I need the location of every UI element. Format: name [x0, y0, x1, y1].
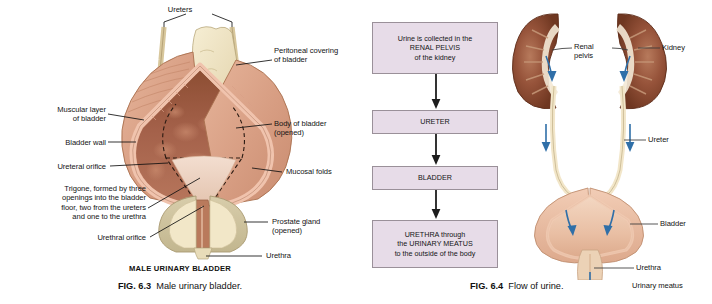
figure-caption-left-prefix: FIG. 6.3	[118, 281, 151, 291]
flow-arrow-3-icon	[430, 190, 442, 220]
figure-caption-right-text: Flow of urine.	[508, 281, 563, 291]
label-bladder-wall: Bladder wall	[14, 138, 106, 147]
figure-male-urinary-bladder: Ureters Peritoneal covering of bladder M…	[0, 0, 360, 304]
label-peritoneal-covering: Peritoneal covering of bladder	[274, 46, 338, 65]
figure-caption-left-text: Male urinary bladder.	[156, 281, 242, 291]
figure-flow-of-urine-flowchart: Urine is collected in the RENAL PELVIS o…	[360, 0, 510, 304]
figure-flow-of-urine-anatomy: Renal pelvis Kidney Ureter Bladder Ureth…	[510, 0, 712, 304]
figure-caption-right-prefix: FIG. 6.4	[470, 281, 503, 291]
label-prostate-gland: Prostate gland (opened)	[272, 217, 320, 236]
flow-step-renal-pelvis[interactable]: Urine is collected in the RENAL PELVIS o…	[372, 22, 498, 74]
label-renal-pelvis: Renal pelvis	[574, 42, 594, 61]
flow-step-ureter[interactable]: URETER	[372, 110, 498, 134]
label-urethra: Urethra	[266, 251, 291, 260]
flow-step-urethra[interactable]: URETHRA through the URINARY MEATUS to th…	[372, 220, 498, 268]
label-ureteral-orifice: Ureteral orifice	[8, 162, 106, 171]
ureter-tubes-right-figure	[552, 86, 623, 196]
label-urethra-right: Urethra	[636, 263, 661, 272]
label-ureters: Ureters	[152, 5, 208, 14]
figure-heading-left: MALE URINARY BLADDER	[0, 264, 360, 273]
label-muscular-layer: Muscular layer of bladder	[14, 105, 106, 124]
label-kidney: Kidney	[662, 43, 685, 52]
label-mucosal-folds: Mucosal folds	[286, 167, 332, 176]
label-ureter-right: Ureter	[648, 135, 669, 144]
label-trigone: Trigone, formed by three openings into t…	[6, 184, 146, 222]
flow-arrow-2-icon	[430, 134, 442, 166]
figure-page: Ureters Peritoneal covering of bladder M…	[0, 0, 712, 304]
urinary-tract-illustration	[510, 0, 712, 280]
label-urethral-orifice: Urethral orifice	[44, 233, 146, 242]
figure-caption-left: FIG. 6.3 Male urinary bladder.	[0, 281, 360, 291]
bladder-shape-right-figure	[534, 188, 643, 280]
label-body-of-bladder: Body of bladder (opened)	[274, 119, 326, 138]
flow-step-bladder[interactable]: BLADDER	[372, 166, 498, 190]
figure-caption-right: FIG. 6.4 Flow of urine.	[470, 281, 670, 291]
flow-arrow-1-icon	[430, 74, 442, 110]
label-bladder-right: Bladder	[660, 219, 686, 228]
